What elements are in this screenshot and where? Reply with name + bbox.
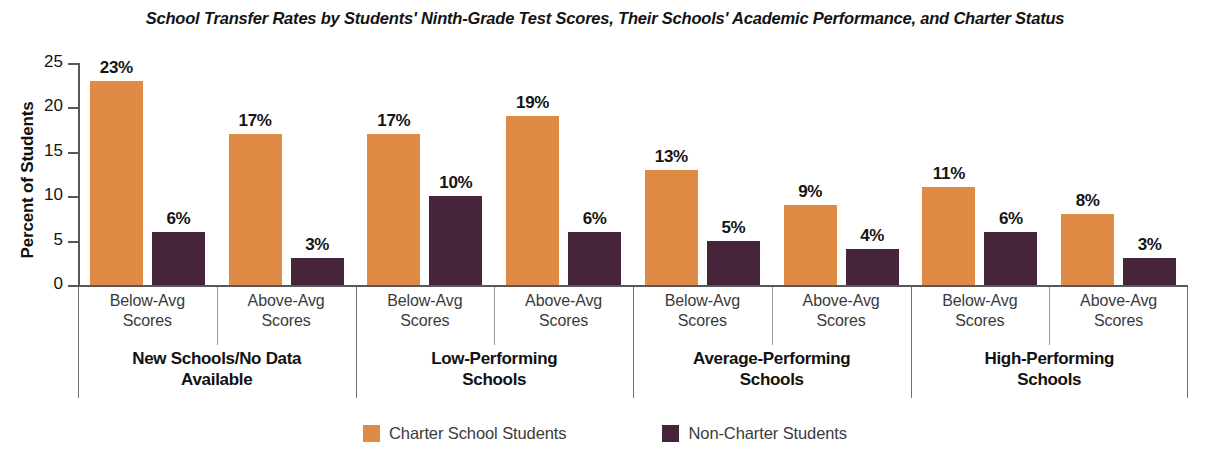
y-axis-line <box>78 63 80 286</box>
bar-value-label: 19% <box>516 93 549 113</box>
legend-item[interactable]: Charter School Students <box>363 424 566 443</box>
bar-value-label: 17% <box>377 111 410 131</box>
subcategory-label-line1: Below-Avg <box>110 292 185 309</box>
subcategory-divider <box>772 287 773 345</box>
legend-label: Non-Charter Students <box>688 424 847 443</box>
group-label-line2: Schools <box>740 370 804 389</box>
group-label: High-PerformingSchools <box>911 348 1189 390</box>
subcategory-label-line2: Scores <box>400 312 449 329</box>
bar-noncharter[interactable]: 10% <box>429 196 482 285</box>
legend-swatch-icon <box>662 425 679 442</box>
subcategory-label-line1: Below-Avg <box>665 292 740 309</box>
subcategory-label-line2: Scores <box>678 312 727 329</box>
subcategory-divider <box>494 287 495 345</box>
bar-charter[interactable]: 13% <box>645 170 698 285</box>
bar-value-label: 5% <box>721 218 745 238</box>
group-label-line1: Low-Performing <box>431 349 557 368</box>
y-tick: 20 <box>68 107 78 109</box>
plot-area: 0510152025 23%6%17%3%17%10%19%6%13%5%9%4… <box>78 63 1188 285</box>
bar-value-label: 8% <box>1076 191 1100 211</box>
subcategory-label-line2: Scores <box>262 312 311 329</box>
bar-charter[interactable]: 9% <box>784 205 837 285</box>
y-tick-label: 10 <box>44 185 63 205</box>
subcategory-label-line2: Scores <box>539 312 588 329</box>
legend-item[interactable]: Non-Charter Students <box>662 424 847 443</box>
subcategory-label: Above-AvgScores <box>772 291 911 331</box>
subcategory-label: Above-AvgScores <box>1049 291 1188 331</box>
legend-swatch-icon <box>363 425 380 442</box>
bar-value-label: 11% <box>933 164 965 184</box>
subcategory-label-line2: Scores <box>817 312 866 329</box>
subcategory-label-line1: Below-Avg <box>387 292 462 309</box>
subcategory-label: Below-AvgScores <box>78 291 217 331</box>
bar-value-label: 13% <box>655 147 688 167</box>
subcategory-divider <box>217 287 218 345</box>
subcategory-label: Below-AvgScores <box>911 291 1050 331</box>
bar-value-label: 6% <box>999 209 1023 229</box>
y-tick: 0 <box>68 285 78 287</box>
group-label: Low-PerformingSchools <box>356 348 634 390</box>
bar-value-label: 3% <box>1138 235 1162 255</box>
group-label-line1: New Schools/No Data <box>132 349 301 368</box>
bar-noncharter[interactable]: 5% <box>707 241 760 285</box>
subcategory-divider <box>1049 287 1050 345</box>
group-label: New Schools/No DataAvailable <box>78 348 356 390</box>
bar-charter[interactable]: 17% <box>229 134 282 285</box>
chart-title: School Transfer Rates by Students' Ninth… <box>0 9 1210 28</box>
subcategory-label-line1: Below-Avg <box>942 292 1017 309</box>
group-label-line1: High-Performing <box>984 349 1114 368</box>
legend-label: Charter School Students <box>389 424 566 443</box>
bar-noncharter[interactable]: 4% <box>846 249 899 285</box>
y-tick: 5 <box>68 241 78 243</box>
bar-value-label: 6% <box>166 209 190 229</box>
bar-value-label: 23% <box>100 58 133 78</box>
bar-charter[interactable]: 23% <box>90 81 143 285</box>
bar-value-label: 17% <box>239 111 272 131</box>
subcategory-label-line1: Above-Avg <box>248 292 325 309</box>
y-tick-label: 25 <box>44 52 63 72</box>
y-axis-title: Percent of Students <box>18 60 38 300</box>
group-label: Average-PerformingSchools <box>633 348 911 390</box>
group-label-line2: Schools <box>1017 370 1081 389</box>
bar-value-label: 3% <box>305 235 329 255</box>
category-axis-area: Below-AvgScoresAbove-AvgScoresNew School… <box>78 287 1188 399</box>
bar-value-label: 6% <box>583 209 607 229</box>
bar-value-label: 4% <box>860 226 884 246</box>
bar-value-label: 10% <box>439 173 472 193</box>
subcategory-label-line1: Above-Avg <box>1080 292 1157 309</box>
subcategory-label: Above-AvgScores <box>494 291 633 331</box>
subcategory-label-line2: Scores <box>955 312 1004 329</box>
group-label-line2: Available <box>181 370 252 389</box>
group-label-line1: Average-Performing <box>693 349 850 368</box>
subcategory-label-line1: Above-Avg <box>525 292 602 309</box>
group-label-line2: Schools <box>462 370 526 389</box>
subcategory-label: Below-AvgScores <box>356 291 495 331</box>
subcategory-label-line1: Above-Avg <box>803 292 880 309</box>
y-tick-label: 5 <box>54 230 63 250</box>
bar-charter[interactable]: 11% <box>922 187 975 285</box>
subcategory-label-line2: Scores <box>123 312 172 329</box>
subcategory-label: Below-AvgScores <box>633 291 772 331</box>
subcategory-label: Above-AvgScores <box>217 291 356 331</box>
subcategory-label-line2: Scores <box>1094 312 1143 329</box>
y-tick-label: 15 <box>44 141 63 161</box>
y-tick-label: 20 <box>44 96 63 116</box>
bar-charter[interactable]: 19% <box>506 116 559 285</box>
chart-legend: Charter School StudentsNon-Charter Stude… <box>0 424 1210 443</box>
y-tick: 25 <box>68 63 78 65</box>
bar-noncharter[interactable]: 3% <box>1123 258 1176 285</box>
y-tick: 10 <box>68 196 78 198</box>
y-tick: 15 <box>68 152 78 154</box>
bar-noncharter[interactable]: 6% <box>568 232 621 285</box>
bar-noncharter[interactable]: 6% <box>984 232 1037 285</box>
bar-charter[interactable]: 8% <box>1061 214 1114 285</box>
bar-value-label: 9% <box>798 182 822 202</box>
bar-noncharter[interactable]: 3% <box>291 258 344 285</box>
y-tick-label: 0 <box>54 274 63 294</box>
bar-noncharter[interactable]: 6% <box>152 232 205 285</box>
bar-charter[interactable]: 17% <box>367 134 420 285</box>
